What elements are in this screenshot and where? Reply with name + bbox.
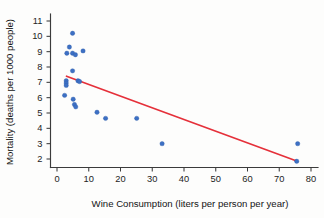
y-tick-label: 7 [37,77,42,87]
data-point [70,31,74,35]
x-tick-label: 70 [274,174,284,184]
x-axis-title: Wine Consumption (liters per person per … [92,198,289,209]
y-axis-title: Mortality (deaths per 1000 people) [4,19,15,165]
data-point [73,53,77,57]
data-point [295,159,299,163]
y-tick-label: 10 [32,31,42,41]
data-point [62,93,66,97]
y-axis-ticks: 234567891011 [32,16,50,164]
data-point [160,141,164,145]
x-tick-label: 30 [147,174,157,184]
data-point [295,141,299,145]
data-point [74,105,78,109]
x-tick-label: 60 [242,174,252,184]
y-tick-label: 3 [37,139,42,149]
scatter-plot-figure: 234567891011 01020304050607080 Wine Cons… [0,0,324,218]
data-point [65,51,69,55]
y-tick-label: 6 [37,93,42,103]
y-tick-label: 11 [33,16,43,26]
x-tick-label: 10 [84,174,94,184]
x-axis-ticks: 01020304050607080 [54,168,316,184]
regression-line [67,76,298,161]
plot-canvas: 234567891011 01020304050607080 Wine Cons… [0,0,324,218]
y-tick-label: 9 [37,47,42,57]
data-point [134,116,138,120]
x-tick-label: 50 [211,174,221,184]
data-point [67,45,71,49]
trend-line [67,76,298,161]
x-tick-label: 0 [54,174,59,184]
data-point [95,110,99,114]
data-point [103,116,107,120]
data-points [62,31,299,163]
data-point [64,83,68,87]
y-tick-label: 4 [37,123,42,133]
x-tick-label: 80 [306,174,316,184]
y-tick-label: 5 [37,108,42,118]
data-point [81,49,85,53]
data-point [71,97,75,101]
x-tick-label: 20 [115,174,125,184]
y-tick-label: 2 [37,154,42,164]
x-tick-label: 40 [179,174,189,184]
y-tick-label: 8 [37,62,42,72]
data-point [70,69,74,73]
data-point [77,79,81,83]
